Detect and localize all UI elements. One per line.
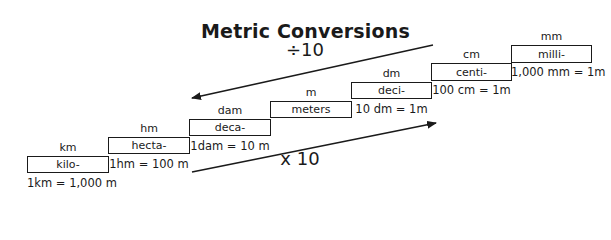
step-mm: mm milli- 1,000 mm = 1m bbox=[511, 45, 592, 63]
prefix-box: deci- bbox=[351, 82, 432, 99]
unit-abbrev: mm bbox=[511, 30, 592, 43]
step-dam: dam deca- 1dam = 10 m bbox=[189, 119, 271, 136]
step-dm: dm deci- 10 dm = 1m bbox=[351, 82, 432, 99]
equation: 1hm = 100 m bbox=[108, 157, 190, 171]
prefix-box: centi- bbox=[431, 63, 512, 81]
step-cm: cm centi- 100 cm = 1m bbox=[431, 63, 512, 81]
unit-abbrev: dm bbox=[351, 67, 432, 80]
unit-abbrev: dam bbox=[189, 104, 271, 117]
unit-abbrev: km bbox=[27, 141, 109, 154]
equation: 1,000 mm = 1m bbox=[511, 65, 592, 79]
equation: 1km = 1,000 m bbox=[27, 176, 109, 190]
prefix-box: milli- bbox=[511, 45, 592, 63]
prefix-box: deca- bbox=[189, 119, 271, 136]
step-m: m meters bbox=[270, 101, 352, 118]
prefix-box: meters bbox=[270, 101, 352, 118]
equation: 100 cm = 1m bbox=[431, 83, 512, 97]
prefix-box: hecta- bbox=[108, 137, 190, 154]
step-km: km kilo- 1km = 1,000 m bbox=[27, 156, 109, 173]
step-hm: hm hecta- 1hm = 100 m bbox=[108, 137, 190, 154]
equation: 10 dm = 1m bbox=[351, 102, 432, 116]
unit-abbrev: cm bbox=[431, 48, 512, 61]
unit-abbrev: m bbox=[270, 86, 352, 99]
unit-abbrev: hm bbox=[108, 122, 190, 135]
divide-by-ten-label: ÷10 bbox=[270, 39, 340, 60]
multiply-by-ten-label: x 10 bbox=[265, 148, 335, 169]
equation: 1dam = 10 m bbox=[189, 139, 271, 153]
prefix-box: kilo- bbox=[27, 156, 109, 173]
